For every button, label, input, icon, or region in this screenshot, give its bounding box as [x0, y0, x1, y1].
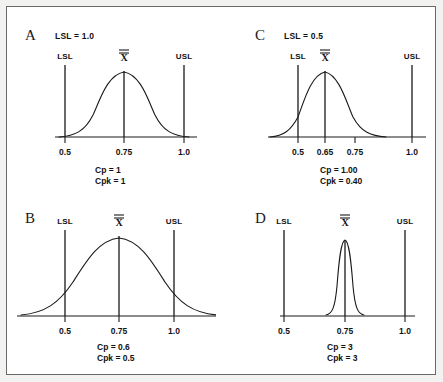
panel-c-stats: Cp = 1.00 Cpk = 0.40	[320, 165, 362, 187]
panel-a: A LSL = 1.0 LSL USL X	[7, 7, 222, 192]
panel-c-lsl-label: LSL	[290, 52, 306, 61]
panel-d-xbar-text: X	[341, 217, 349, 228]
panel-d-tick-2: 1.0	[399, 326, 411, 336]
panel-d: D LSL USL X 0.5 0.75	[222, 192, 437, 376]
panel-a-cp: Cp = 1	[95, 165, 125, 176]
panel-a-usl-label: USL	[176, 52, 193, 61]
panel-a-lsl-label: LSL	[57, 52, 73, 61]
panel-b-xbar-text: X	[115, 217, 123, 228]
panel-d-lsl-label: LSL	[276, 217, 292, 226]
panel-b-cp: Cp = 0.6	[97, 342, 135, 353]
panel-b-lsl-label: LSL	[57, 217, 73, 226]
panel-d-usl-label: USL	[397, 217, 414, 226]
panel-d-plot: LSL USL X 0.5 0.75 1.0	[260, 210, 440, 340]
panel-c-tick-3: 1.0	[406, 147, 418, 157]
panel-a-xbar-label: X	[119, 50, 129, 63]
panel-a-tick-2: 1.0	[178, 147, 190, 157]
panel-a-header: LSL = 1.0	[55, 31, 94, 41]
panel-a-stats: Cp = 1 Cpk = 1	[95, 165, 125, 187]
panel-a-tick-1: 0.75	[116, 147, 133, 157]
panel-c-letter: C	[255, 27, 265, 44]
panel-b-plot: LSL USL X 0.5 0.75 1.0	[11, 210, 216, 340]
panel-b-cpk: Cpk = 0.5	[97, 353, 135, 364]
panel-b-tick-0: 0.5	[59, 326, 71, 336]
panel-a-cpk: Cpk = 1	[95, 176, 125, 187]
panel-c-xbar-text: X	[321, 52, 329, 63]
panel-c: C LSL = 0.5 LSL USL X	[222, 7, 437, 192]
panel-d-cp: Cp = 3	[327, 342, 357, 353]
panel-c-curve	[270, 72, 386, 137]
panel-c-tick-2: 0.75	[347, 147, 364, 157]
panel-c-plot: LSL USL X 0.5 0.65 0.75	[260, 45, 440, 160]
panel-d-tick-0: 0.5	[278, 326, 290, 336]
panel-c-header: LSL = 0.5	[284, 31, 323, 41]
panel-c-tick-0: 0.5	[292, 147, 304, 157]
panel-a-plot: LSL USL X 0.5 0.75	[37, 45, 212, 160]
panel-c-cpk: Cpk = 0.40	[320, 176, 362, 187]
panel-a-letter: A	[25, 27, 36, 44]
panel-d-xbar-label: X	[340, 215, 350, 228]
panel-b-xbar-label: X	[114, 215, 124, 228]
panel-a-tick-0: 0.5	[59, 147, 71, 157]
panel-c-tick-1: 0.65	[317, 147, 334, 157]
panel-b-stats: Cp = 0.6 Cpk = 0.5	[97, 342, 135, 364]
panel-d-tick-1: 0.75	[337, 326, 354, 336]
panel-d-stats: Cp = 3 Cpk = 3	[327, 342, 357, 364]
figure-frame: A LSL = 1.0 LSL USL X	[6, 6, 436, 375]
panel-c-usl-label: USL	[404, 52, 421, 61]
panel-b: B LSL USL X 0.5 0.75	[7, 192, 222, 376]
panel-c-xbar-label: X	[320, 50, 330, 63]
panel-b-tick-2: 1.0	[168, 326, 180, 336]
panel-a-xbar-text: X	[120, 52, 128, 63]
panel-b-usl-label: USL	[166, 217, 183, 226]
panel-b-tick-1: 0.75	[111, 326, 128, 336]
figure-container: A LSL = 1.0 LSL USL X	[0, 0, 443, 382]
panel-c-cp: Cp = 1.00	[320, 165, 362, 176]
panel-d-cpk: Cpk = 3	[327, 353, 357, 364]
